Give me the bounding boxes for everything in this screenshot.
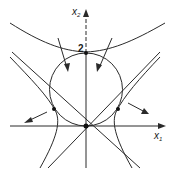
- x1-axis-arrow-icon: [158, 123, 166, 129]
- flow-arrow-left-head-icon: [24, 117, 33, 123]
- x1-axis-label: x1: [154, 131, 162, 142]
- flow-arrow-right: [128, 103, 145, 112]
- phase-diagram: x2 x1 2: [0, 0, 175, 171]
- upper-curve: [10, 23, 165, 52]
- flow-arrow-top-left: [58, 38, 67, 68]
- flow-arrow-top-right: [99, 38, 112, 68]
- diagram-svg: [0, 0, 175, 171]
- x2-axis-arrow-icon: [83, 9, 89, 17]
- left-hyperbola-upper: [10, 57, 58, 168]
- left-point: [52, 107, 56, 111]
- top-point: [84, 51, 88, 55]
- x2-axis-label: x2: [72, 7, 80, 18]
- top-point-label: 2: [78, 44, 84, 54]
- line-through-origin-1: [12, 52, 140, 168]
- right-point: [116, 107, 120, 111]
- flow-arrow-top-left-head-icon: [64, 63, 70, 72]
- origin-point: [84, 124, 89, 129]
